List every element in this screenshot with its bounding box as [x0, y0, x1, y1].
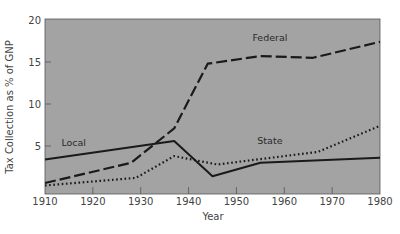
x-tick-label: 1910: [32, 196, 57, 207]
series-state-label: State: [257, 135, 282, 146]
x-tick-label: 1920: [80, 196, 105, 207]
y-tick-label: 5: [35, 141, 41, 152]
line-chart: 5101520 19101920193019401950196019701980…: [0, 0, 400, 234]
plot-area: [45, 19, 380, 194]
x-tick-label: 1970: [319, 196, 344, 207]
y-tick-label: 10: [28, 99, 41, 110]
x-tick-label: 1940: [176, 196, 201, 207]
y-tick-label: 20: [28, 15, 41, 26]
x-axis-title: Year: [201, 211, 224, 222]
series-local-label: Local: [61, 137, 86, 148]
y-tick-label: 15: [28, 57, 41, 68]
y-axis-title: Tax Collection as % of GNP: [4, 40, 15, 175]
x-tick-label: 1980: [367, 196, 392, 207]
x-tick-label: 1960: [272, 196, 297, 207]
series-federal-label: Federal: [252, 32, 287, 43]
x-tick-label: 1930: [128, 196, 153, 207]
x-tick-label: 1950: [224, 196, 249, 207]
